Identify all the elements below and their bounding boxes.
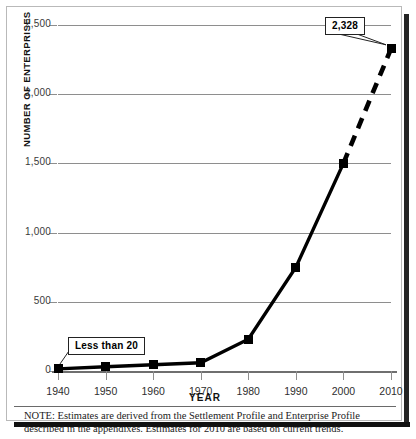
x-axis-title: YEAR (7, 392, 403, 403)
y-tick-label: 500 (0, 295, 51, 306)
y-axis-title: NUMBER OF ENTERPRISES (21, 11, 32, 147)
data-point-marker (149, 360, 158, 369)
x-tick-mark (391, 371, 392, 380)
x-tick-mark (201, 371, 202, 380)
y-tick-label: 1,500 (0, 156, 51, 167)
plot-area: 05001,0001,5002,0002,500 194019501960197… (58, 25, 391, 371)
y-tick-label: 2,000 (0, 87, 51, 98)
note-divider (14, 406, 396, 407)
y-tick-label: 1,000 (0, 226, 51, 237)
series-line (58, 25, 391, 371)
data-point-marker (54, 364, 63, 373)
x-tick-mark (106, 371, 107, 380)
data-point-marker (244, 335, 253, 344)
chart-note: NOTE: Estimates are derived from the Set… (24, 410, 390, 435)
x-tick-mark (296, 371, 297, 380)
x-tick-mark (248, 371, 249, 380)
chart-page: NUMBER OF ENTERPRISES 05001,0001,5002,00… (6, 6, 402, 421)
data-point-marker (196, 358, 205, 367)
y-tick-label: 0 (0, 364, 51, 375)
callout-2328: 2,328 (325, 17, 365, 35)
y-tick-label: 2,500 (0, 18, 51, 29)
data-point-marker (101, 362, 110, 371)
callout-less-than-20: Less than 20 (68, 337, 145, 355)
data-point-marker (291, 263, 300, 272)
line-dashed-projection (343, 49, 391, 164)
x-tick-mark (153, 371, 154, 380)
page-shadow-right (404, 14, 409, 427)
data-point-marker (339, 159, 348, 168)
x-tick-mark (343, 371, 344, 380)
data-point-marker (387, 44, 396, 53)
